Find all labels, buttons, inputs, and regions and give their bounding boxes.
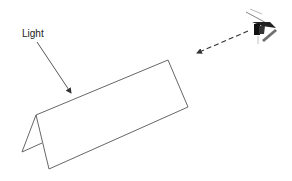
folded-card: [22, 60, 188, 169]
diagram-drawing: [0, 0, 292, 181]
diagram-canvas: Light: [0, 0, 292, 181]
eye-icon: [246, 9, 277, 44]
light-arrow: [37, 42, 71, 93]
view-arrow: [197, 31, 248, 53]
card-front-face: [36, 60, 188, 169]
